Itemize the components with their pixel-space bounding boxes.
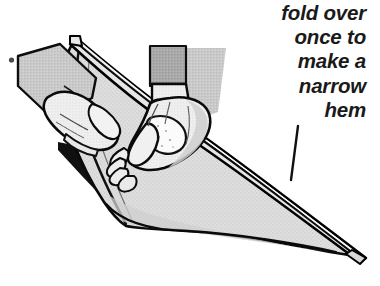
print-speck (9, 57, 14, 62)
caption-line-5: hem (176, 98, 366, 122)
caption-text: fold over once to make a narrow hem (176, 1, 366, 122)
caption-line-4: narrow (176, 74, 366, 98)
caption-line-2: once to (176, 25, 366, 49)
caption-line-3: make a (176, 49, 366, 73)
caption-line-1: fold over (176, 1, 366, 25)
instruction-figure: fold over once to make a narrow hem (0, 0, 380, 286)
hem-start-cap (70, 36, 82, 46)
